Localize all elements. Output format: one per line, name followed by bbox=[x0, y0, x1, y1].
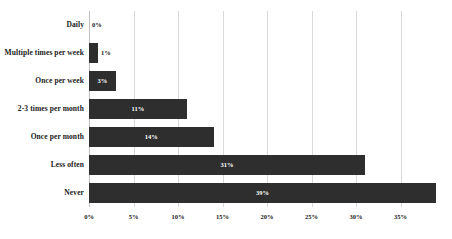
bar-row: Less often31% bbox=[89, 151, 445, 179]
category-label: Less often bbox=[51, 151, 84, 179]
x-tick-label: 10% bbox=[172, 213, 185, 220]
bar-value-label: 31% bbox=[220, 155, 233, 175]
bar-value-label: 0% bbox=[92, 15, 102, 35]
bar[interactable] bbox=[89, 43, 98, 63]
bar-value-label: 39% bbox=[256, 183, 269, 203]
x-tick-label: 20% bbox=[261, 213, 274, 220]
x-tick-label: 15% bbox=[216, 213, 229, 220]
bar-chart: Daily0%Multiple times per week1%Once per… bbox=[0, 0, 452, 239]
bar-row: Never39% bbox=[89, 179, 445, 207]
x-tick-label: 0% bbox=[84, 213, 94, 220]
bar-row: Multiple times per week1% bbox=[89, 39, 445, 67]
x-tick-label: 35% bbox=[394, 213, 407, 220]
bar-row: Daily0% bbox=[89, 11, 445, 39]
bar-value-label: 3% bbox=[97, 71, 107, 91]
x-axis: 0%5%10%15%20%25%30%35% bbox=[89, 207, 445, 227]
bar-value-label: 1% bbox=[101, 43, 111, 63]
bar-row: Once per month14% bbox=[89, 123, 445, 151]
bar-row: Once per week3% bbox=[89, 67, 445, 95]
category-label: Never bbox=[64, 179, 84, 207]
x-tick-label: 30% bbox=[350, 213, 363, 220]
category-label: Once per week bbox=[35, 67, 84, 95]
bar-row: 2-3 times per month11% bbox=[89, 95, 445, 123]
bar-value-label: 11% bbox=[132, 99, 145, 119]
category-label: Daily bbox=[66, 11, 84, 39]
category-label: 2-3 times per month bbox=[18, 95, 84, 123]
x-tick-label: 25% bbox=[305, 213, 318, 220]
x-tick-label: 5% bbox=[129, 213, 139, 220]
category-label: Multiple times per week bbox=[5, 39, 84, 67]
bar-value-label: 14% bbox=[145, 127, 158, 147]
category-label: Once per month bbox=[31, 123, 84, 151]
plot-area: Daily0%Multiple times per week1%Once per… bbox=[89, 11, 445, 207]
